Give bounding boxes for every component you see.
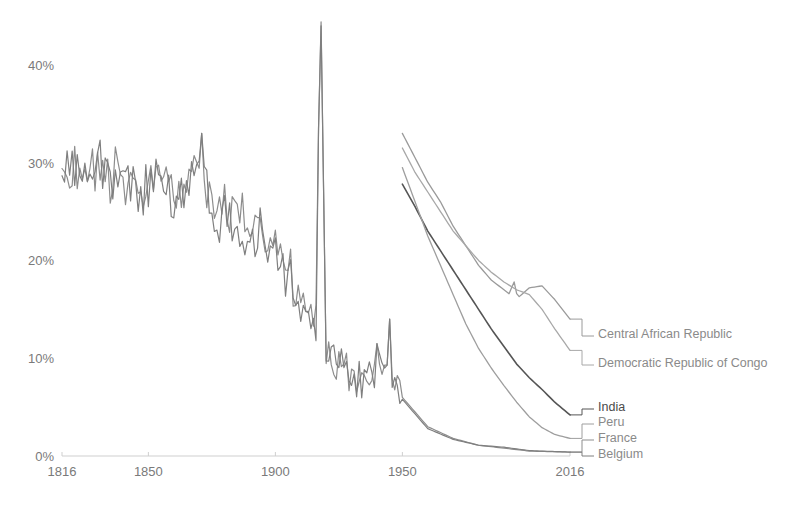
legend-item-peru[interactable]: Peru — [598, 415, 624, 429]
x-axis-tick-label: 1816 — [48, 464, 77, 479]
x-axis-tick-label: 1850 — [134, 464, 163, 479]
series-line-peru — [402, 168, 570, 439]
axis-layer — [62, 452, 570, 456]
legend-connector — [570, 452, 594, 456]
series-line-belgium — [62, 26, 570, 452]
y-axis-tick-label: 30% — [28, 156, 54, 171]
x-axis-labels: 18161850190019502016 — [48, 464, 585, 479]
series-line-india — [402, 184, 570, 415]
legend-connector — [570, 319, 594, 336]
legend-connector — [570, 409, 594, 415]
y-axis-tick-label: 40% — [28, 58, 54, 73]
legend-connector-layer — [570, 319, 594, 456]
chart-root: 0%10%20%30%40% 18161850190019502016 Cent… — [0, 0, 811, 513]
x-axis-tick-label: 1900 — [261, 464, 290, 479]
legend-connector — [570, 350, 594, 365]
y-axis-tick-label: 10% — [28, 351, 54, 366]
y-axis-tick-label: 0% — [35, 449, 54, 464]
legend-connector — [570, 424, 594, 438]
legend-item-france[interactable]: France — [598, 431, 637, 445]
y-axis-labels: 0%10%20%30%40% — [28, 58, 54, 464]
legend-item-india[interactable]: India — [598, 400, 625, 414]
legend-item-democratic-republic-of-congo[interactable]: Democratic Republic of Congo — [598, 356, 768, 370]
x-axis-tick-label: 2016 — [556, 464, 585, 479]
legend-item-central-african-republic[interactable]: Central African Republic — [598, 327, 732, 341]
series-layer — [62, 22, 570, 452]
y-axis-tick-label: 20% — [28, 253, 54, 268]
series-line-central-african-republic — [402, 133, 570, 319]
line-chart: 0%10%20%30%40% 18161850190019502016 — [0, 0, 811, 513]
x-axis-tick-label: 1950 — [388, 464, 417, 479]
legend-connector — [570, 440, 594, 452]
series-line-france — [62, 22, 570, 452]
legend-item-belgium[interactable]: Belgium — [598, 447, 643, 461]
